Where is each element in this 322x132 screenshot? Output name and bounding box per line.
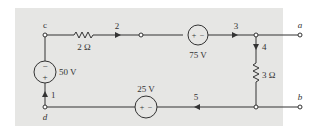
source-25v-label: 25 V — [137, 84, 155, 94]
circuit-diagram: − + + − + − 2 Ω 3 Ω 50 V 75 V 25 V 1 2 3… — [0, 0, 322, 132]
source-25v-plus: + — [140, 103, 145, 112]
terminal-a-label: a — [298, 20, 303, 30]
source-50v-minus: − — [42, 61, 47, 71]
node-d — [43, 105, 47, 109]
terminal-b — [298, 105, 302, 109]
resistor-3ohm — [253, 63, 259, 82]
source-75v-plus: + — [192, 31, 197, 40]
terminal-b-label: b — [298, 92, 303, 102]
node-c-label: c — [43, 20, 47, 30]
resistor-2ohm — [74, 32, 93, 38]
branch-3-label: 3 — [234, 21, 239, 31]
source-25v-minus: − — [148, 103, 153, 112]
arrow-branch-2-icon — [115, 32, 121, 38]
node-top-mid — [139, 33, 143, 37]
source-25v — [135, 96, 157, 118]
node-d-label: d — [43, 112, 48, 122]
resistor-2ohm-label: 2 Ω — [77, 42, 91, 52]
node-top-right — [254, 33, 258, 37]
branch-5-label: 5 — [194, 92, 199, 102]
arrow-branch-1-icon — [42, 91, 48, 97]
branch-2-label: 2 — [115, 21, 120, 31]
resistor-3ohm-label: 3 Ω — [262, 70, 276, 80]
arrow-branch-5-icon — [194, 104, 200, 110]
source-50v-plus: + — [42, 72, 47, 82]
branch-4-label: 4 — [262, 42, 267, 52]
arrow-branch-4-icon — [253, 44, 259, 50]
branch-1-label: 1 — [51, 90, 56, 100]
arrow-branch-3-icon — [232, 32, 238, 38]
source-75v-minus: − — [200, 31, 205, 40]
node-bottom-right — [254, 105, 258, 109]
node-c — [43, 33, 47, 37]
source-75v-label: 75 V — [189, 50, 207, 60]
terminal-a — [298, 33, 302, 37]
source-50v-label: 50 V — [59, 67, 77, 77]
